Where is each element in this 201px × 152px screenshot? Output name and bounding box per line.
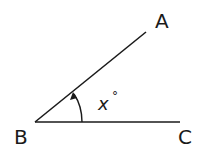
- degree-symbol: °: [112, 89, 118, 103]
- angle-label: x: [97, 93, 109, 114]
- ray-ba: [35, 32, 146, 122]
- angle-diagram: A B C x °: [0, 0, 201, 152]
- label-c: C: [178, 125, 192, 149]
- label-a: A: [155, 9, 169, 33]
- label-b: B: [14, 125, 28, 149]
